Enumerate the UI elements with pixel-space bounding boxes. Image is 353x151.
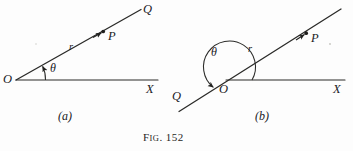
figure-caption-dot: . xyxy=(160,131,163,143)
panel-a-axis-label: X xyxy=(146,83,154,96)
panel-a-origin-label: O xyxy=(3,73,12,86)
panel-a-point-p-dot xyxy=(101,30,105,34)
panel-a-point-label: P xyxy=(108,30,116,43)
scan-speck xyxy=(35,43,37,45)
panel-a-ray-line xyxy=(16,10,141,81)
figure-caption: FIG. 152 xyxy=(143,131,184,143)
figure-drawing xyxy=(0,0,353,151)
panel-b-angle-label: θ xyxy=(211,46,217,58)
panel-b-point-p-dot xyxy=(304,31,308,35)
panel-b-axis-label: X xyxy=(333,83,341,96)
panel-a-radius-label: r xyxy=(69,42,73,53)
scan-speck xyxy=(329,43,331,45)
figure-container: O X Q P r θ (a) O X Q P r θ (b) FIG. 152 xyxy=(0,0,353,151)
panel-b-radius-label: r xyxy=(248,44,252,55)
panel-a-angle-arc xyxy=(43,66,46,80)
panel-a-drawing xyxy=(16,10,158,81)
panel-b-terminal-label: Q xyxy=(172,90,181,103)
panel-b-sublabel: (b) xyxy=(255,110,269,122)
panel-a-sublabel: (a) xyxy=(58,110,72,122)
figure-caption-number: 152 xyxy=(166,131,184,143)
figure-caption-smallcaps: IG xyxy=(150,133,160,143)
panel-b-point-label: P xyxy=(311,32,319,45)
panel-a-terminal-label: Q xyxy=(143,3,152,16)
panel-b-origin-label: O xyxy=(219,83,228,96)
panel-a-angle-label: θ xyxy=(50,62,56,74)
panel-b-ray-line xyxy=(179,9,341,112)
panel-b-drawing xyxy=(179,9,345,112)
